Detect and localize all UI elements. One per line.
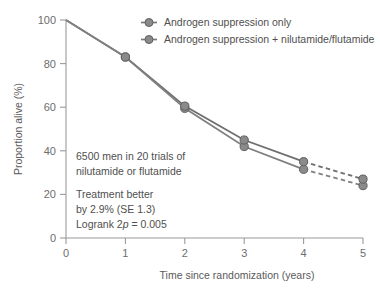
y-tick-label-40: 40 (44, 145, 56, 157)
data-point-marker (181, 102, 189, 110)
x-tick-label-1: 1 (122, 247, 128, 259)
x-tick-label-3: 3 (241, 247, 247, 259)
survival-chart-figure: 100 80 60 40 20 0 0 1 2 3 4 5 Time since… (0, 0, 380, 296)
data-point-marker (300, 165, 308, 173)
annotation-line-1: 6500 men in 20 trials of (76, 150, 185, 162)
legend-label-0: Androgen suppression only (164, 16, 292, 28)
legend-label-1: Androgen suppression + nilutamide/flutam… (164, 33, 375, 45)
annotation-line-3: Treatment better (76, 188, 154, 200)
annotation-line-4: by 2.9% (SE 1.3) (76, 203, 155, 215)
series-1-dashed-line (304, 169, 363, 185)
chart-canvas: 100 80 60 40 20 0 0 1 2 3 4 5 Time since… (0, 0, 380, 296)
legend-item-1[interactable]: Androgen suppression + nilutamide/flutam… (141, 33, 375, 45)
x-tick-label-0: 0 (63, 247, 69, 259)
y-tick-label-20: 20 (44, 188, 56, 200)
logrank-suffix: = 0.005 (129, 218, 167, 230)
data-point-marker (300, 158, 308, 166)
annotation-block: 6500 men in 20 trials of nilutamide or f… (76, 150, 185, 230)
y-axis-title: Proportion alive (%) (12, 83, 24, 175)
y-tick-group: 100 80 60 40 20 0 (38, 14, 66, 244)
data-point-marker (359, 175, 367, 183)
data-point-marker (121, 53, 129, 61)
y-tick-label-0: 0 (50, 232, 56, 244)
legend-circle-icon (145, 19, 153, 27)
series-2-dashed-line (304, 162, 363, 179)
y-tick-label-80: 80 (44, 58, 56, 70)
x-tick-label-2: 2 (182, 247, 188, 259)
y-tick-label-100: 100 (38, 14, 56, 26)
annotation-line-2: nilutamide or flutamide (76, 165, 182, 177)
annotation-line-5: Logrank 2p = 0.005 (76, 218, 167, 230)
logrank-prefix: Logrank 2 (76, 218, 123, 230)
x-tick-label-5: 5 (360, 247, 366, 259)
legend: Androgen suppression only Androgen suppr… (141, 16, 375, 45)
legend-item-0[interactable]: Androgen suppression only (141, 16, 292, 28)
x-axis-title: Time since randomization (years) (160, 269, 315, 281)
legend-circle-icon (145, 36, 153, 44)
series-2-markers (121, 53, 367, 183)
x-tick-group: 0 1 2 3 4 5 (63, 238, 366, 259)
x-tick-label-4: 4 (301, 247, 307, 259)
data-point-marker (240, 136, 248, 144)
y-tick-label-60: 60 (44, 101, 56, 113)
